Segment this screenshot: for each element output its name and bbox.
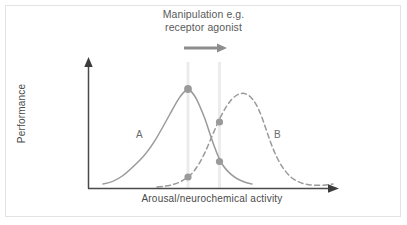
curve-a-label: A: [136, 129, 143, 140]
marker-a-shifted: [216, 158, 223, 165]
y-axis-label: Performance: [16, 68, 27, 160]
curve-b-label: B: [274, 129, 281, 140]
plot-svg: [0, 0, 407, 225]
x-axis-right-arrow-icon: [328, 184, 339, 193]
figure-container: Manipulation e.g. receptor agonist Perfo…: [0, 0, 407, 225]
up-arrow-icon: [84, 57, 92, 67]
curve-a-path: [103, 89, 252, 184]
marker-b-baseline: [184, 173, 191, 180]
curve-b-path: [157, 93, 333, 187]
marker-a-peak: [184, 85, 192, 93]
marker-b-shifted: [216, 118, 223, 125]
x-axis-label: Arousal/neurochemical activity: [88, 193, 336, 204]
